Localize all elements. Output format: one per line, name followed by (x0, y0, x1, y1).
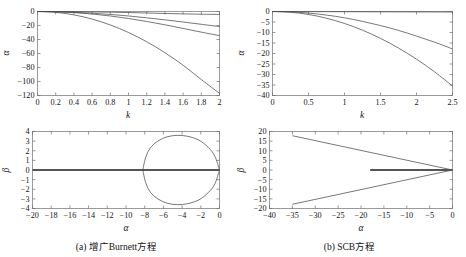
x-tick-label: −10 (400, 211, 413, 220)
x-tick-label: 2.5 (447, 98, 457, 107)
y-tick-label: 0 (262, 166, 266, 175)
plot-area-b-top: 00.511.522.5 0−5−10−15−20−25−30−35−40 k … (236, 7, 458, 120)
x-tick-label: 1.8 (196, 98, 206, 107)
y-tick-labels: 43210−1−2−3−4 (21, 127, 30, 213)
y-tick-label: −15 (257, 39, 270, 48)
x-tick-label: 2 (414, 98, 418, 107)
y-tick-marks (38, 12, 220, 96)
y-tick-label: 0 (30, 7, 34, 16)
y-tick-label: −40 (257, 91, 270, 100)
plot-area-a-top: 00.20.40.60.811.21.41.61.82 0−20−40−60−8… (1, 7, 222, 120)
x-tick-label: −35 (286, 211, 299, 220)
y-tick-label: −80 (22, 63, 35, 72)
y-tick-label: −4 (21, 204, 30, 213)
x-tick-label: −5 (425, 211, 434, 220)
data-curve (273, 12, 453, 13)
curve-group (33, 135, 220, 204)
x-tick-label: 1.6 (178, 98, 188, 107)
x-tick-label: −10 (120, 211, 133, 220)
data-curve (273, 12, 453, 87)
panel-b-top-svg: 00.511.522.5 0−5−10−15−20−25−30−35−40 k … (233, 0, 466, 120)
data-curve (292, 170, 452, 204)
y-tick-label: −20 (254, 204, 267, 213)
panel-b-bottom-svg: −40−35−30−25−20−15−10−50 20151050−5−10−1… (233, 125, 466, 235)
panel-b-top: 00.511.522.5 0−5−10−15−20−25−30−35−40 k … (233, 0, 466, 120)
figure-container: 00.20.40.60.811.21.41.61.82 0−20−40−60−8… (0, 0, 466, 257)
y-tick-label: 15 (258, 137, 266, 146)
x-tick-label: 1 (126, 98, 130, 107)
x-tick-label: −2 (196, 211, 205, 220)
plot-area-b-bottom: −40−35−30−25−20−15−10−50 20151050−5−10−1… (236, 127, 455, 233)
y-axis-label: β (236, 167, 246, 173)
x-tick-label: −20 (355, 211, 368, 220)
y-tick-label: −10 (254, 185, 267, 194)
y-tick-label: 1 (25, 156, 29, 165)
data-curve (143, 135, 220, 170)
y-tick-label: 0 (265, 7, 269, 16)
y-tick-label: −1 (21, 176, 30, 185)
x-tick-label: 0.2 (51, 98, 61, 107)
y-tick-label: −20 (22, 21, 35, 30)
data-curve (292, 136, 452, 170)
y-tick-label: −3 (21, 195, 30, 204)
x-tick-labels: 00.20.40.60.811.21.41.61.82 (35, 98, 221, 107)
curve-group (38, 12, 220, 94)
x-tick-label: 1.4 (160, 98, 170, 107)
y-tick-label: −10 (257, 28, 270, 37)
x-tick-label: 0.5 (303, 98, 313, 107)
x-tick-label: 1.5 (375, 98, 385, 107)
data-curve (38, 12, 220, 94)
x-tick-labels: 00.511.522.5 (270, 98, 457, 107)
y-tick-label: 10 (258, 147, 266, 156)
y-tick-label: 0 (25, 166, 29, 175)
y-tick-labels: 20151050−5−10−15−20 (254, 127, 267, 213)
x-tick-label: −16 (63, 211, 76, 220)
x-tick-marks (273, 12, 453, 96)
x-tick-label: −30 (309, 211, 322, 220)
x-tick-label: 0.4 (69, 98, 79, 107)
x-tick-label: 2 (217, 98, 221, 107)
y-axis-label: α (1, 50, 11, 56)
y-tick-label: −5 (261, 18, 270, 27)
curve-group (292, 136, 452, 205)
y-tick-label: −40 (22, 35, 35, 44)
x-tick-label: 0.8 (105, 98, 115, 107)
plot-frame (38, 12, 220, 96)
y-tick-label: −5 (258, 176, 267, 185)
y-tick-label: −15 (254, 195, 267, 204)
y-tick-marks (273, 12, 453, 96)
x-tick-label: 0 (35, 98, 39, 107)
x-tick-label: 0 (217, 211, 221, 220)
x-axis-label: k (360, 110, 365, 120)
y-tick-label: −120 (18, 91, 35, 100)
y-tick-label: −60 (22, 49, 35, 58)
panel-a-bottom: −20−18−16−14−12−10−8−6−4−20 43210−1−2−3−… (0, 125, 233, 235)
caption-b: (b) SCB方程 (233, 239, 466, 253)
panel-b-bottom: −40−35−30−25−20−15−10−50 20151050−5−10−1… (233, 125, 466, 235)
panel-a-bottom-svg: −20−18−16−14−12−10−8−6−4−20 43210−1−2−3−… (0, 125, 233, 235)
curve-group (273, 12, 453, 87)
x-tick-label: −15 (377, 211, 390, 220)
x-tick-labels: −40−35−30−25−20−15−10−50 (263, 211, 454, 220)
x-tick-label: −12 (101, 211, 114, 220)
x-tick-label: −8 (140, 211, 149, 220)
data-curve (143, 170, 220, 205)
caption-a: (a) 增广Burnett方程 (0, 239, 233, 253)
y-tick-label: 3 (25, 137, 29, 146)
panel-a-top-svg: 00.20.40.60.811.21.41.61.82 0−20−40−60−8… (0, 0, 233, 120)
y-tick-label: −30 (257, 70, 270, 79)
x-tick-label: 0 (270, 98, 274, 107)
y-tick-label: 2 (25, 147, 29, 156)
panel-a-top: 00.20.40.60.811.21.41.61.82 0−20−40−60−8… (0, 0, 233, 120)
x-tick-label: 0.6 (87, 98, 97, 107)
x-axis-label: k (126, 110, 131, 120)
x-tick-label: 1.2 (142, 98, 152, 107)
y-tick-labels: 0−5−10−15−20−25−30−35−40 (257, 7, 270, 100)
y-tick-label: −20 (257, 49, 270, 58)
x-tick-labels: −20−18−16−14−12−10−8−6−4−20 (26, 211, 221, 220)
x-tick-marks (38, 12, 220, 96)
data-curve (38, 12, 220, 36)
y-axis-label: α (236, 50, 246, 56)
x-tick-label: −4 (178, 211, 187, 220)
y-tick-label: −25 (257, 60, 270, 69)
